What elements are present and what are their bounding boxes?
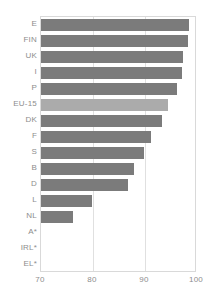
category-label-b: B <box>31 160 37 176</box>
category-label-d: D <box>31 176 37 192</box>
bar-f <box>41 131 151 144</box>
bar-s <box>41 147 144 160</box>
category-axis-labels: EFINUKIPEU-15DKFSBDLNLA*IRL*EL* <box>0 16 37 272</box>
bar-row <box>41 145 195 161</box>
category-label-irlstar: IRL* <box>21 240 37 256</box>
category-label-f: F <box>32 128 37 144</box>
xtick-label-80: 80 <box>87 275 96 284</box>
bar-uk <box>41 51 183 64</box>
bar-row <box>41 193 195 209</box>
category-label-dk: DK <box>25 112 37 128</box>
category-label-nl: NL <box>26 208 37 224</box>
category-label-elstar: EL* <box>24 256 38 272</box>
bar-row <box>41 81 195 97</box>
category-label-eu-15: EU-15 <box>13 96 37 112</box>
category-label-i: I <box>35 64 37 80</box>
bar-row <box>41 209 195 225</box>
bar-d <box>41 179 128 192</box>
bar-row <box>41 97 195 113</box>
bar-row <box>41 33 195 49</box>
xtick-label-70: 70 <box>35 275 44 284</box>
bar-nl <box>41 211 73 224</box>
plot-area <box>40 16 196 272</box>
bar-eu-15 <box>41 99 168 112</box>
bar-row <box>41 257 195 273</box>
bar-row <box>41 65 195 81</box>
xtick-label-100: 100 <box>189 275 203 284</box>
category-label-uk: UK <box>25 48 37 64</box>
bar-chart: EFINUKIPEU-15DKFSBDLNLA*IRL*EL* 70809010… <box>0 0 208 305</box>
bar-row <box>41 49 195 65</box>
category-label-s: S <box>31 144 37 160</box>
bar-i <box>41 67 182 80</box>
bar-fin <box>41 35 188 48</box>
bars-layer <box>41 17 195 271</box>
bar-l <box>41 195 92 208</box>
bar-row <box>41 161 195 177</box>
bar-row <box>41 241 195 257</box>
bar-row <box>41 225 195 241</box>
bar-row <box>41 17 195 33</box>
category-label-e: E <box>31 16 37 32</box>
bar-e <box>41 19 189 32</box>
bar-row <box>41 129 195 145</box>
category-label-l: L <box>32 192 37 208</box>
bar-dk <box>41 115 162 128</box>
category-label-fin: FIN <box>24 32 38 48</box>
value-axis-labels: 708090100 <box>0 275 208 291</box>
bar-row <box>41 113 195 129</box>
bar-row <box>41 177 195 193</box>
bar-b <box>41 163 134 176</box>
bar-p <box>41 83 177 96</box>
xtick-label-90: 90 <box>139 275 148 284</box>
category-label-p: P <box>31 80 37 96</box>
category-label-astar: A* <box>28 224 37 240</box>
